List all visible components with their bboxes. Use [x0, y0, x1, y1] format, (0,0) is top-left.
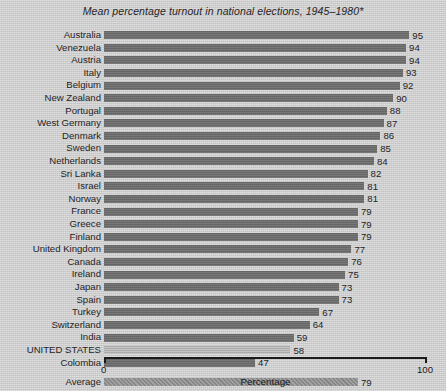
bar: [104, 56, 406, 64]
chart-row: France79: [0, 205, 446, 218]
x-axis-tick-0: [104, 357, 106, 363]
bar: [104, 132, 380, 140]
category-label: Ireland: [0, 268, 101, 281]
category-label: Belgium: [0, 79, 101, 92]
bar-value-label: 86: [383, 130, 394, 143]
bar-value-label: 73: [342, 282, 353, 295]
bar-value-label: 67: [322, 307, 333, 320]
chart-row: Israel81: [0, 180, 446, 193]
bar: [104, 157, 374, 165]
bar: [104, 182, 364, 190]
category-label: West Germany: [0, 117, 101, 130]
bar-value-label: 79: [361, 206, 372, 219]
bar: [104, 195, 364, 203]
chart-row: Switzerland64: [0, 319, 446, 332]
category-label: France: [0, 205, 101, 218]
bar-value-label: 79: [361, 231, 372, 244]
chart-row: Venezuela94: [0, 42, 446, 55]
category-label: Japan: [0, 281, 101, 294]
category-label: Australia: [0, 29, 101, 42]
bar-value-label: 81: [367, 193, 378, 206]
bar-value-label: 75: [348, 269, 359, 282]
category-label: Netherlands: [0, 155, 101, 168]
bar-value-label: 64: [313, 319, 324, 332]
category-label: Finland: [0, 231, 101, 244]
bar: [104, 334, 294, 342]
category-label: Italy: [0, 67, 101, 80]
category-label: Spain: [0, 294, 101, 307]
category-label: Israel: [0, 180, 101, 193]
chart-row: Belgium92: [0, 79, 446, 92]
category-label: Greece: [0, 218, 101, 231]
bar-value-label: 88: [390, 105, 401, 118]
bar-value-label: 94: [409, 42, 420, 55]
category-label: Sri Lanka: [0, 168, 101, 181]
x-axis-line: [104, 357, 427, 359]
chart-title: Mean percentage turnout in national elec…: [0, 5, 446, 17]
chart-row: Netherlands84: [0, 155, 446, 168]
x-axis-tick-label-0: 0: [101, 364, 106, 375]
bar-chart-plot-area: Australia95Venezuela94Austria94Italy93Be…: [0, 27, 446, 357]
chart-row: Ireland75: [0, 268, 446, 281]
chart-row: Japan73: [0, 281, 446, 294]
chart-row: New Zealand90: [0, 92, 446, 105]
chart-row: Turkey67: [0, 306, 446, 319]
bar-value-label: 73: [342, 294, 353, 307]
chart-row: Australia95: [0, 29, 446, 42]
bar: [104, 119, 384, 127]
bar: [104, 44, 406, 52]
bar: [104, 208, 358, 216]
x-axis-tick-100: [425, 357, 427, 363]
bar: [104, 69, 403, 77]
category-label: New Zealand: [0, 92, 101, 105]
bar: [104, 94, 393, 102]
bar: [104, 107, 387, 115]
category-label: United Kingdom: [0, 243, 101, 256]
x-axis-tick-label-100: 100: [417, 364, 433, 375]
bar: [104, 359, 255, 367]
chart-row: West Germany87: [0, 117, 446, 130]
chart-row: Norway81: [0, 193, 446, 206]
category-label: Venezuela: [0, 42, 101, 55]
bar: [104, 145, 377, 153]
bar: [104, 220, 358, 228]
chart-row: Spain73: [0, 294, 446, 307]
category-label: Average: [0, 376, 101, 389]
bar-value-label: 87: [387, 118, 398, 131]
bar-value-label: 76: [351, 256, 362, 269]
category-label: Portugal: [0, 105, 101, 118]
chart-row: Greece79: [0, 218, 446, 231]
category-label: Canada: [0, 256, 101, 269]
bar: [104, 346, 290, 354]
category-label: Turkey: [0, 306, 101, 319]
bar: [104, 233, 358, 241]
bar-value-label: 59: [297, 332, 308, 345]
chart-row: India59: [0, 331, 446, 344]
chart-row: Sweden85: [0, 142, 446, 155]
x-axis-label: Percentage: [104, 376, 427, 387]
bar-value-label: 81: [367, 181, 378, 194]
bar: [104, 271, 345, 279]
bar: [104, 82, 400, 90]
bar-value-label: 93: [406, 67, 417, 80]
chart-row: UNITED STATES58: [0, 344, 446, 357]
chart-row: Italy93: [0, 67, 446, 80]
category-label: Norway: [0, 193, 101, 206]
bar: [104, 283, 339, 291]
category-label: Colombia: [0, 357, 101, 370]
category-label: UNITED STATES: [0, 344, 101, 357]
category-label: Switzerland: [0, 319, 101, 332]
bar-value-label: 82: [371, 168, 382, 181]
chart-row: Finland79: [0, 231, 446, 244]
bar-value-label: 94: [409, 55, 420, 68]
bar-value-label: 90: [396, 93, 407, 106]
chart-row: United Kingdom77: [0, 243, 446, 256]
chart-row: Sri Lanka82: [0, 168, 446, 181]
chart-row: Austria94: [0, 54, 446, 67]
chart-row: Portugal88: [0, 105, 446, 118]
bar-value-label: 92: [403, 80, 414, 93]
category-label: Austria: [0, 54, 101, 67]
bar: [104, 258, 348, 266]
bar-value-label: 95: [412, 30, 423, 43]
bar: [104, 170, 368, 178]
